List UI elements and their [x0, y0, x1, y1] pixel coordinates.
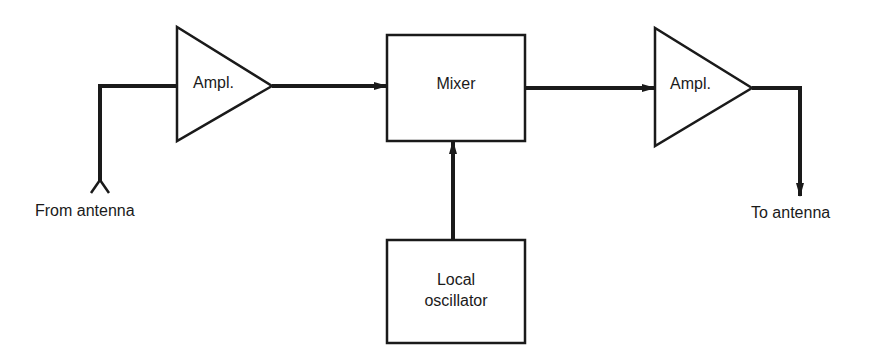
input-terminal-label: From antenna	[35, 202, 135, 220]
amplifier-input-label: Ampl.	[193, 74, 234, 92]
amplifier-output-label: Ampl.	[670, 75, 711, 93]
local-oscillator-label-line1: Local	[387, 271, 525, 289]
local-oscillator-label-line2: oscillator	[387, 292, 525, 310]
output-wire	[752, 88, 800, 196]
antenna-icon	[91, 180, 109, 193]
input-wire	[100, 86, 177, 181]
output-terminal-label: To antenna	[751, 204, 830, 222]
mixer-label: Mixer	[387, 75, 525, 93]
